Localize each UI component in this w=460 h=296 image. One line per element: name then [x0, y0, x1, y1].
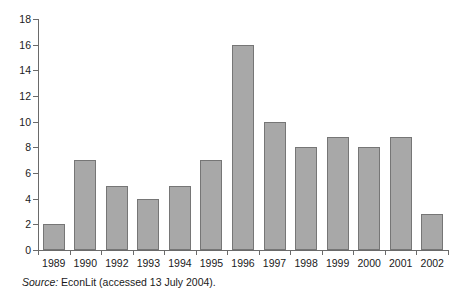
- x-tick-mark: [353, 250, 354, 255]
- y-tick-label: 10: [19, 116, 31, 127]
- y-tick-mark: [33, 173, 38, 174]
- y-tick-mark: [33, 122, 38, 123]
- x-tick-label: 1990: [74, 258, 97, 269]
- x-tick-label: 2001: [389, 258, 412, 269]
- bar: [264, 122, 286, 250]
- y-tick-label: 18: [19, 14, 31, 25]
- x-tick-mark: [133, 250, 134, 255]
- y-tick-mark: [33, 199, 38, 200]
- bar: [137, 199, 159, 250]
- x-axis-line: [38, 250, 448, 251]
- x-tick-label: 1995: [200, 258, 223, 269]
- y-tick-label: 14: [19, 65, 31, 76]
- x-tick-mark: [290, 250, 291, 255]
- x-tick-label: 1996: [231, 258, 254, 269]
- y-tick-label: 2: [25, 219, 31, 230]
- x-tick-label: 2000: [357, 258, 380, 269]
- y-tick-label: 16: [19, 39, 31, 50]
- x-tick-label: 1997: [263, 258, 286, 269]
- bar: [74, 160, 96, 250]
- x-tick-label: 1993: [137, 258, 160, 269]
- y-tick-mark: [33, 19, 38, 20]
- bar: [43, 224, 65, 250]
- x-tick-label: 1989: [42, 258, 65, 269]
- x-tick-mark: [322, 250, 323, 255]
- x-tick-mark: [227, 250, 228, 255]
- x-tick-label: 1994: [168, 258, 191, 269]
- y-tick-mark: [33, 70, 38, 71]
- source-note: Source: EconLit (accessed 13 July 2004).: [22, 276, 216, 289]
- x-tick-mark: [416, 250, 417, 255]
- bar: [106, 186, 128, 250]
- y-tick-label: 4: [25, 193, 31, 204]
- x-tick-mark: [164, 250, 165, 255]
- y-tick-label: 12: [19, 91, 31, 102]
- bar-chart-figure: 181614121086420 198919901992199319941995…: [0, 0, 460, 296]
- x-tick-mark: [101, 250, 102, 255]
- x-tick-mark: [259, 250, 260, 255]
- bar: [169, 186, 191, 250]
- y-tick-mark: [33, 45, 38, 46]
- bar: [232, 45, 254, 250]
- bar: [390, 137, 412, 250]
- plot-area: 181614121086420: [38, 19, 448, 250]
- source-text: EconLit (accessed 13 July 2004).: [61, 276, 216, 288]
- x-tick-label: 1992: [105, 258, 128, 269]
- x-tick-label: 2002: [421, 258, 444, 269]
- y-tick-label: 0: [25, 245, 31, 256]
- y-tick-label: 6: [25, 168, 31, 179]
- y-tick-label: 8: [25, 142, 31, 153]
- x-tick-mark: [385, 250, 386, 255]
- x-tick-label: 1998: [294, 258, 317, 269]
- bar: [421, 214, 443, 250]
- x-tick-mark: [38, 250, 39, 255]
- bar: [358, 147, 380, 250]
- x-tick-label: 1999: [326, 258, 349, 269]
- x-tick-mark: [448, 250, 449, 255]
- x-tick-mark: [70, 250, 71, 255]
- y-tick-mark: [33, 224, 38, 225]
- x-tick-mark: [196, 250, 197, 255]
- y-tick-mark: [33, 147, 38, 148]
- bar: [327, 137, 349, 250]
- source-label: Source:: [22, 276, 58, 288]
- bar: [295, 147, 317, 250]
- y-tick-mark: [33, 96, 38, 97]
- bar: [200, 160, 222, 250]
